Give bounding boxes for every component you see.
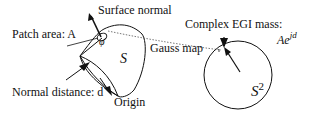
sphere-label: S2 xyxy=(251,84,264,99)
sphere-label-base: S xyxy=(251,83,259,99)
complex-egi-mass-label: Complex EGI mass: xyxy=(185,18,282,30)
gauss-map-label: Gauss map xyxy=(150,42,203,54)
egi-formula: Aejd xyxy=(277,34,297,46)
sphere-label-exponent: 2 xyxy=(259,80,265,92)
sphere-normal-arrowhead-icon xyxy=(224,47,231,56)
normal-distance-label: Normal distance: d xyxy=(12,86,103,98)
egi-formula-base: Ae xyxy=(277,33,290,47)
surface-symbol: S xyxy=(120,52,127,66)
egi-formula-exponent: jd xyxy=(290,30,297,40)
patch-area-label: Patch area: A xyxy=(12,28,76,40)
normal-distance-pointer xyxy=(66,67,84,80)
angle-symbol: φ xyxy=(99,37,105,47)
origin-label: Origin xyxy=(114,96,145,108)
surface-normal-label: Surface normal xyxy=(98,4,172,16)
